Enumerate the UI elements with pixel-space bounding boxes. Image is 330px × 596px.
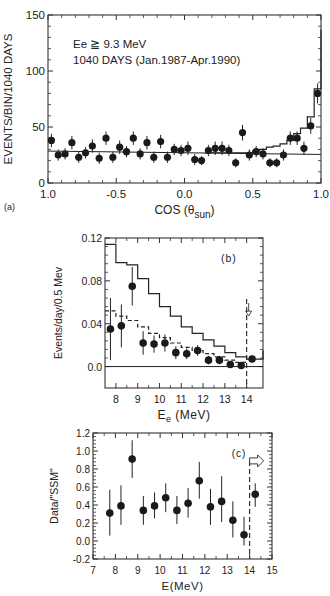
- x-tick-label: 1.0: [313, 188, 329, 200]
- data-point: [75, 152, 82, 163]
- x-tick-label: 13: [222, 565, 234, 576]
- series-ssm-prediction: [105, 244, 263, 359]
- y-tick-label: 1.0: [76, 446, 90, 457]
- x-tick-label: 12: [199, 565, 211, 576]
- data-point: [128, 267, 136, 306]
- data-point: [102, 131, 109, 144]
- data-point: [280, 149, 287, 160]
- data-point: [164, 152, 171, 163]
- y-tick-label: 100: [26, 65, 45, 77]
- data-point: [151, 492, 159, 518]
- chart-panel-b: 0.00.040.080.12891011121314Events/day/0.…: [52, 232, 263, 424]
- y-tick-label: -0.2: [73, 554, 91, 565]
- x-tick-label: 11: [176, 393, 187, 405]
- data-point: [307, 118, 314, 134]
- data-point: [140, 496, 148, 525]
- y-tick-label: 0.2: [76, 518, 90, 529]
- y-tick-label: 50: [32, 121, 45, 133]
- arrow-right-icon: [250, 455, 264, 467]
- data-point: [246, 149, 253, 160]
- data-point: [143, 136, 150, 149]
- y-tick-label: 0.6: [76, 482, 90, 493]
- x-tick-label: -0.5: [106, 188, 126, 200]
- y-tick-label: 150: [26, 9, 45, 21]
- data-point: [89, 139, 96, 152]
- x-tick-label: 10: [154, 393, 166, 405]
- data-point: [139, 331, 147, 355]
- y-axis-label: EVENTS/BIN/1040 DAYS: [2, 33, 14, 164]
- data-point: [118, 304, 126, 347]
- x-tick-label: 0.5: [245, 188, 261, 200]
- data-point: [314, 83, 321, 103]
- data-point: [96, 153, 103, 164]
- data-point: [207, 489, 215, 525]
- data-point: [198, 156, 205, 165]
- data-point: [287, 131, 294, 144]
- series-expected-ssm-background-: [205, 30, 321, 153]
- x-tick-label: 12: [197, 393, 209, 405]
- x-tick-label: 10: [155, 565, 167, 576]
- data-point: [184, 488, 192, 518]
- y-tick-label: 1.2: [76, 428, 90, 439]
- y-tick-label: 0.4: [76, 500, 90, 511]
- x-tick-label: 7: [90, 565, 96, 576]
- y-tick-label: 0.0: [87, 361, 102, 373]
- x-axis-label: Ee (MeV): [157, 408, 210, 424]
- data-point: [172, 346, 180, 359]
- data-point: [191, 154, 198, 165]
- data-point: [195, 462, 203, 499]
- x-tick-label: 13: [219, 393, 231, 405]
- panel-label: (a): [4, 202, 15, 212]
- data-point: [109, 152, 116, 163]
- y-tick-label: 0.04: [82, 318, 103, 330]
- data-point: [82, 147, 89, 158]
- x-tick-label: 14: [244, 565, 256, 576]
- data-point: [161, 334, 169, 351]
- data-point: [205, 356, 213, 365]
- data-point: [239, 125, 246, 141]
- y-axis-label: Events/day/0.5 Mev: [52, 266, 64, 359]
- data-point: [106, 490, 114, 536]
- data-point: [130, 131, 137, 144]
- x-tick-label: 8: [113, 393, 119, 405]
- x-tick-label: 15: [266, 565, 278, 576]
- data-point: [300, 142, 307, 155]
- data-point: [150, 336, 158, 353]
- y-tick-label: 0.08: [82, 275, 103, 287]
- data-point: [273, 158, 280, 167]
- data-point: [128, 440, 136, 478]
- data-point: [218, 476, 226, 522]
- chart-panel-c: -0.20.00.20.40.60.81.01.2789101112131415…: [48, 428, 278, 592]
- x-axis-label: COS (θsun): [154, 203, 214, 220]
- x-tick-label: 14: [241, 393, 253, 405]
- data-point: [227, 361, 235, 369]
- data-point: [157, 135, 164, 148]
- x-tick-label: 1.0: [40, 188, 56, 200]
- figure: 0501001501.0-0.50.00.51.0EVENTS/BIN/1040…: [0, 0, 330, 596]
- x-tick-label: 8: [113, 565, 119, 576]
- x-tick-label: 9: [135, 393, 141, 405]
- data-point: [225, 145, 232, 156]
- y-tick-label: 0.8: [76, 464, 90, 475]
- annotation-text: 1040 DAYS (Jan.1987-Apr.1990): [73, 54, 240, 66]
- series-data: [48, 83, 321, 167]
- data-point: [117, 485, 125, 525]
- data-point: [162, 483, 170, 512]
- data-point: [183, 348, 191, 359]
- panel-label: (b): [221, 252, 237, 264]
- annotation-text: Ee ≧ 9.3 MeV: [73, 38, 147, 50]
- data-point: [266, 158, 273, 167]
- panel-label: (c): [232, 448, 247, 459]
- data-point: [137, 148, 144, 159]
- data-point: [150, 152, 157, 163]
- y-tick-label: 0.12: [82, 232, 103, 244]
- data-point: [240, 517, 248, 546]
- x-tick-label: 11: [177, 565, 188, 576]
- y-axis-label: Data/"SSM": [48, 468, 60, 524]
- x-tick-label: 9: [135, 565, 141, 576]
- x-tick-label: 0.0: [177, 188, 193, 200]
- chart-panel-a: 0501001501.0-0.50.00.51.0EVENTS/BIN/1040…: [2, 9, 329, 220]
- x-axis-label: E(MeV): [162, 580, 204, 592]
- data-point: [205, 145, 212, 156]
- data-point: [232, 158, 239, 167]
